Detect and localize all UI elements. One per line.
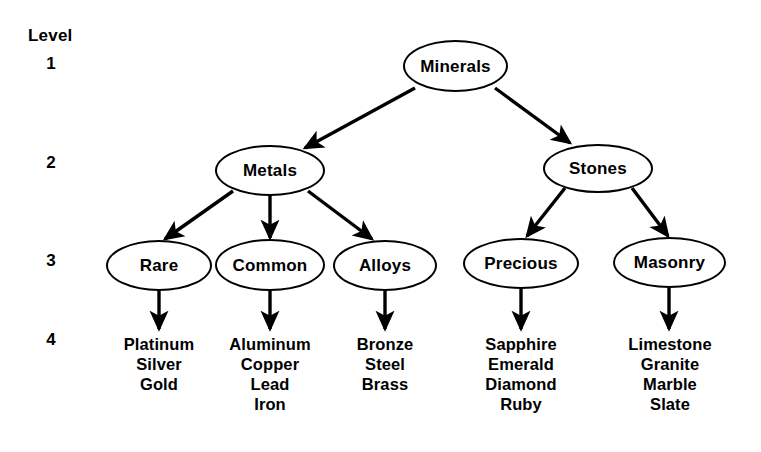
- node-stones-label: Stones: [569, 160, 627, 177]
- node-masonry-label: Masonry: [634, 254, 705, 271]
- leaf-group-rare: Platinum Silver Gold: [99, 334, 219, 394]
- node-masonry[interactable]: Masonry: [613, 237, 726, 288]
- node-minerals[interactable]: Minerals: [403, 40, 508, 92]
- leaf-item: Limestone: [604, 334, 736, 354]
- leaf-item: Aluminum: [210, 334, 330, 354]
- tree-diagram: Level 1 2 3 4 Minerals Metals Stones Rar…: [0, 0, 761, 452]
- leaf-item: Lead: [210, 374, 330, 394]
- edge-stones-precious: [527, 188, 565, 236]
- level-number-1: 1: [36, 54, 66, 74]
- leaf-item: Marble: [604, 374, 736, 394]
- leaf-group-precious: Sapphire Emerald Diamond Ruby: [456, 334, 586, 414]
- node-rare-label: Rare: [140, 257, 179, 274]
- node-metals[interactable]: Metals: [215, 145, 325, 196]
- leaf-item: Copper: [210, 354, 330, 374]
- leaf-item: Slate: [604, 394, 736, 414]
- node-stones[interactable]: Stones: [543, 144, 653, 193]
- leaf-group-masonry: Limestone Granite Marble Slate: [604, 334, 736, 414]
- node-alloys-label: Alloys: [359, 257, 411, 274]
- level-number-4: 4: [36, 330, 66, 350]
- leaf-item: Platinum: [99, 334, 219, 354]
- node-minerals-label: Minerals: [420, 58, 491, 75]
- node-common-label: Common: [233, 257, 308, 274]
- node-alloys[interactable]: Alloys: [333, 240, 437, 291]
- level-number-2: 2: [36, 153, 66, 173]
- leaf-item: Iron: [210, 394, 330, 414]
- leaf-item: Emerald: [456, 354, 586, 374]
- leaf-item: Silver: [99, 354, 219, 374]
- leaf-group-common: Aluminum Copper Lead Iron: [210, 334, 330, 414]
- leaf-item: Sapphire: [456, 334, 586, 354]
- edge-minerals-stones: [495, 88, 570, 143]
- level-number-3: 3: [36, 251, 66, 271]
- node-precious[interactable]: Precious: [463, 238, 579, 289]
- node-precious-label: Precious: [484, 255, 557, 272]
- edge-metals-rare: [165, 191, 233, 239]
- leaf-item: Brass: [330, 374, 440, 394]
- leaf-item: Diamond: [456, 374, 586, 394]
- leaf-item: Ruby: [456, 394, 586, 414]
- edge-metals-alloys: [308, 191, 372, 239]
- edge-minerals-metals: [305, 88, 415, 148]
- node-common[interactable]: Common: [215, 239, 325, 291]
- node-rare[interactable]: Rare: [106, 240, 212, 291]
- leaf-item: Bronze: [330, 334, 440, 354]
- leaf-group-alloys: Bronze Steel Brass: [330, 334, 440, 394]
- node-metals-label: Metals: [243, 162, 297, 179]
- edge-stones-masonry: [632, 188, 668, 236]
- leaf-item: Granite: [604, 354, 736, 374]
- level-gutter-caption: Level: [28, 26, 72, 46]
- leaf-item: Gold: [99, 374, 219, 394]
- leaf-item: Steel: [330, 354, 440, 374]
